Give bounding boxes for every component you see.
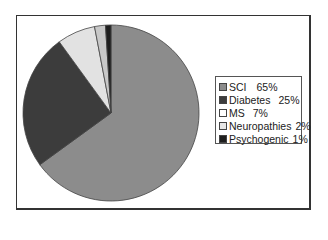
legend-label: Psychogenic (229, 133, 289, 145)
legend-swatch-ms (219, 109, 227, 117)
legend-value: 25% (278, 94, 299, 106)
legend-label: Diabetes (229, 94, 270, 106)
legend-swatch-sci (219, 83, 227, 91)
legend-value: 1% (293, 133, 308, 145)
legend-swatch-neuropathies (219, 122, 227, 130)
legend-label: MS (229, 107, 245, 119)
legend-value: 2% (295, 120, 310, 132)
legend-label: SCI (229, 81, 247, 93)
legend: SCI 65% Diabetes 25% MS 7% Neuropathies … (215, 76, 302, 144)
legend-swatch-psychogenic (219, 135, 227, 143)
legend-swatch-diabetes (219, 96, 227, 104)
legend-item-psychogenic: Psychogenic 1% (219, 132, 301, 145)
legend-value: 7% (253, 107, 268, 119)
legend-item-neuropathies: Neuropathies 2% (219, 119, 301, 132)
legend-value: 65% (257, 81, 278, 93)
legend-item-ms: MS 7% (219, 106, 301, 119)
legend-item-diabetes: Diabetes 25% (219, 93, 301, 106)
legend-label: Neuropathies (229, 120, 291, 132)
legend-item-sci: SCI 65% (219, 80, 301, 93)
